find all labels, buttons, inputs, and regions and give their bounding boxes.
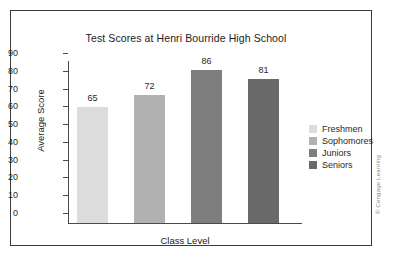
- bar[interactable]: 65: [77, 107, 108, 223]
- bar[interactable]: 81: [248, 79, 279, 223]
- bar-value-label: 72: [122, 82, 177, 91]
- y-axis-tick-label: 0: [0, 209, 18, 218]
- legend-label: Sophomores: [322, 137, 373, 146]
- legend-item-seniors[interactable]: Seniors: [309, 159, 373, 171]
- y-axis-tick-label: 40: [0, 138, 18, 147]
- legend-swatch: [309, 125, 317, 133]
- y-axis-tick-label: 60: [0, 102, 18, 111]
- credit-text: © Cengage Learning: [375, 155, 381, 214]
- y-axis-tick-label: 80: [0, 67, 18, 76]
- y-axis-tick-label: 50: [0, 120, 18, 129]
- legend-swatch: [309, 161, 317, 169]
- chart-title: Test Scores at Henri Bourride High Schoo…: [41, 32, 331, 44]
- y-axis-title: Average Score: [35, 71, 46, 171]
- y-axis-tick-label: 10: [0, 191, 18, 200]
- plot-area: 65728681: [68, 63, 301, 223]
- y-axis-tick: [63, 53, 68, 54]
- x-axis-title: Class Level: [68, 235, 302, 246]
- legend-swatch: [309, 137, 317, 145]
- figure: Test Scores at Henri Bourride High Schoo…: [0, 0, 401, 263]
- y-axis-tick-label: 90: [0, 49, 18, 58]
- x-axis-line: [68, 223, 302, 224]
- bar-value-label: 65: [65, 94, 120, 103]
- bar-value-label: 81: [236, 66, 291, 75]
- legend-label: Freshmen: [322, 125, 363, 134]
- y-axis-tick-label: 70: [0, 85, 18, 94]
- legend-label: Seniors: [322, 161, 353, 170]
- legend-item-sophomores[interactable]: Sophomores: [309, 135, 373, 147]
- legend-item-freshmen[interactable]: Freshmen: [309, 123, 373, 135]
- bar[interactable]: 86: [191, 70, 222, 223]
- y-axis-tick-label: 20: [0, 173, 18, 182]
- legend-item-juniors[interactable]: Juniors: [309, 147, 373, 159]
- legend-label: Juniors: [322, 149, 351, 158]
- bar[interactable]: 72: [134, 95, 165, 223]
- chart-frame: Test Scores at Henri Bourride High Schoo…: [10, 10, 372, 246]
- bar-value-label: 86: [179, 57, 234, 66]
- legend-swatch: [309, 149, 317, 157]
- legend: FreshmenSophomoresJuniorsSeniors: [309, 123, 373, 171]
- y-axis-tick-label: 30: [0, 156, 18, 165]
